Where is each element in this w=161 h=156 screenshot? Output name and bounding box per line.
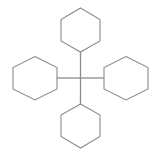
cyclohexyl-ring-bottom [61,104,100,148]
cyclohexyl-ring-left [13,57,57,101]
bond-group [57,52,104,104]
chemical-structure-diagram [0,0,161,156]
cyclohexyl-ring-top [61,8,100,52]
structure-canvas: tetracyclohexylmethane [0,0,161,156]
cyclohexyl-ring-right [104,57,148,101]
